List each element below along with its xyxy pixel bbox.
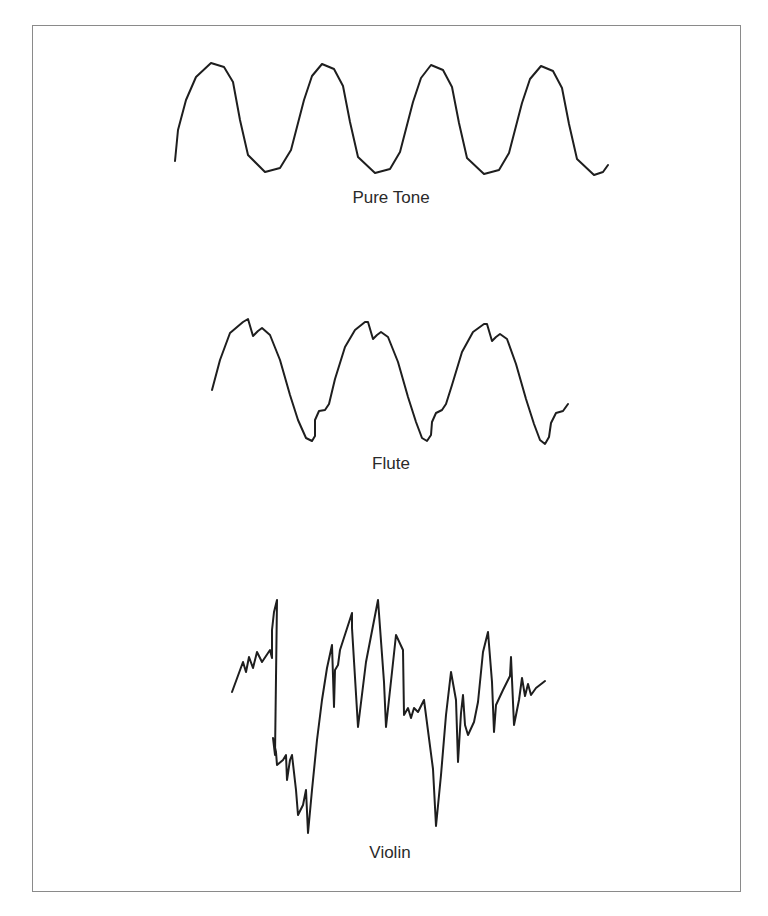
violin-label: Violin xyxy=(290,843,490,863)
flute-waveform xyxy=(212,319,568,444)
pure-tone-label: Pure Tone xyxy=(291,188,491,208)
violin-waveform xyxy=(232,600,545,833)
flute-label: Flute xyxy=(291,454,491,474)
pure-tone-waveform xyxy=(175,63,608,175)
